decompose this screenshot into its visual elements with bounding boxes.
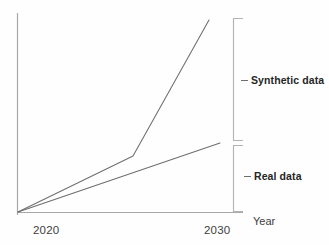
x-tick-label-2030: 2030 [204,225,230,237]
bracket-real-data [234,146,244,212]
bracket-label-real-data: Real data [254,171,302,182]
chart-figure: 2020 2030 Year Synthetic data Real data [0,0,329,245]
bracket-synthetic-data [234,19,244,141]
series-line-real-data [18,143,220,212]
series-line-synthetic-data [18,20,209,212]
bracket-label-synthetic-data: Synthetic data [251,75,324,86]
x-axis-title: Year [253,216,275,227]
x-tick-label-2020: 2020 [33,225,59,237]
chart-plot-area [0,0,329,245]
